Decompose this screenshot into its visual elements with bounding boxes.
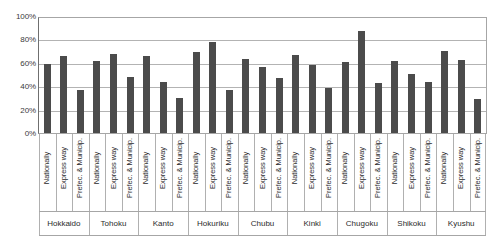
- tick-cell: Nationally: [387, 134, 403, 211]
- bar: [259, 67, 266, 133]
- bar-group: [39, 18, 89, 133]
- series-tick-label: Nationally: [391, 152, 399, 184]
- tick-group: NationallyExpress wayPrefec. & Municip.: [287, 134, 337, 211]
- series-tick-label: Nationally: [341, 152, 349, 184]
- bar: [176, 98, 183, 133]
- bar: [127, 77, 134, 133]
- bar: [242, 59, 249, 133]
- series-tick-label: Express way: [408, 147, 416, 189]
- series-tick-label: Express way: [109, 147, 117, 189]
- series-tick-label: Express way: [209, 147, 217, 189]
- bar: [458, 60, 465, 133]
- tick-cell: Express way: [453, 134, 469, 211]
- tick-cell: Nationally: [287, 134, 303, 211]
- bar: [425, 82, 432, 133]
- tick-cell: Prefec. & Municip.: [321, 134, 337, 211]
- tick-cell: Express way: [105, 134, 121, 211]
- bar: [474, 99, 481, 134]
- region-label: Kanto: [138, 212, 188, 235]
- bar: [325, 88, 332, 133]
- region-label: Tohoku: [89, 212, 139, 235]
- series-tick-label: Express way: [308, 147, 316, 189]
- series-tick-label: Express way: [259, 147, 267, 189]
- tick-cell: Prefec. & Municip.: [72, 134, 88, 211]
- tick-cell: Prefec. & Municip.: [370, 134, 386, 211]
- tick-cell: Nationally: [188, 134, 204, 211]
- tick-cell: Nationally: [89, 134, 105, 211]
- bar-group: [436, 18, 486, 133]
- bar: [77, 90, 84, 133]
- series-tick-label: Nationally: [43, 152, 51, 184]
- tick-cell: Express way: [354, 134, 370, 211]
- y-axis-tick-label: 100%: [2, 13, 36, 21]
- region-label: Shikoku: [387, 212, 437, 235]
- tick-cell: Express way: [403, 134, 419, 211]
- series-tick-label: Nationally: [143, 152, 151, 184]
- tick-cell: Prefec. & Municip.: [420, 134, 436, 211]
- tick-cell: Express way: [155, 134, 171, 211]
- region-label: Kyushu: [436, 212, 486, 235]
- series-tick-label: Nationally: [93, 152, 101, 184]
- tick-group: NationallyExpress wayPrefec. & Municip.: [89, 134, 139, 211]
- bar-group: [337, 18, 387, 133]
- bar-chart: 0%20%40%60%80%100% NationallyExpress way…: [0, 0, 499, 244]
- y-axis: 0%20%40%60%80%100%: [0, 17, 36, 134]
- series-tick-label: Nationally: [292, 152, 300, 184]
- tick-cell: Prefec. & Municip.: [122, 134, 138, 211]
- series-tick-label: Prefec. & Municip.: [474, 138, 482, 198]
- bar-group: [188, 18, 238, 133]
- region-label: Hokuriku: [188, 212, 238, 235]
- tick-cell: Express way: [205, 134, 221, 211]
- series-tick-label: Prefec. & Municip.: [374, 138, 382, 198]
- tick-cell: Express way: [56, 134, 72, 211]
- series-tick-label: Express way: [60, 147, 68, 189]
- bar-group: [287, 18, 337, 133]
- tick-cell: Prefec. & Municip.: [271, 134, 287, 211]
- bar-group: [387, 18, 437, 133]
- series-tick-label: Prefec. & Municip.: [126, 138, 134, 198]
- tick-group: NationallyExpress wayPrefec. & Municip.: [238, 134, 288, 211]
- series-tick-label: Nationally: [441, 152, 449, 184]
- bar: [143, 56, 150, 133]
- tick-cell: Nationally: [39, 134, 55, 211]
- bar-group: [238, 18, 288, 133]
- bar: [226, 90, 233, 133]
- bar: [209, 42, 216, 133]
- series-tick-label: Nationally: [242, 152, 250, 184]
- region-label: Chubu: [238, 212, 288, 235]
- tick-group: NationallyExpress wayPrefec. & Municip.: [436, 134, 486, 211]
- bar: [441, 51, 448, 133]
- bar: [110, 54, 117, 133]
- bar: [342, 62, 349, 133]
- series-tick-label: Express way: [358, 147, 366, 189]
- bar: [358, 31, 365, 133]
- tick-band-right-edge: [485, 134, 486, 211]
- tick-cell: Nationally: [436, 134, 452, 211]
- y-axis-tick-label: 20%: [2, 107, 36, 115]
- bar: [60, 56, 67, 133]
- tick-cell: Prefec. & Municip.: [221, 134, 237, 211]
- tick-cell: Express way: [304, 134, 320, 211]
- bars-layer: [39, 18, 486, 133]
- series-tick-label: Nationally: [192, 152, 200, 184]
- series-tick-label: Prefec. & Municip.: [176, 138, 184, 198]
- tick-cell: Express way: [254, 134, 270, 211]
- tick-cell: Prefec. & Municip.: [172, 134, 188, 211]
- tick-group: NationallyExpress wayPrefec. & Municip.: [138, 134, 188, 211]
- tick-group: NationallyExpress wayPrefec. & Municip.: [387, 134, 437, 211]
- bar: [44, 64, 51, 133]
- series-tick-label: Prefec. & Municip.: [76, 138, 84, 198]
- bar: [93, 61, 100, 133]
- y-axis-tick-label: 0%: [2, 130, 36, 138]
- tick-cell: Prefec. & Municip.: [470, 134, 486, 211]
- y-axis-tick-label: 80%: [2, 36, 36, 44]
- tick-cell: Nationally: [238, 134, 254, 211]
- series-tick-label: Prefec. & Municip.: [225, 138, 233, 198]
- series-tick-label: Express way: [457, 147, 465, 189]
- y-axis-tick-label: 40%: [2, 83, 36, 91]
- tick-cell: Nationally: [138, 134, 154, 211]
- tick-cell: Nationally: [337, 134, 353, 211]
- region-band-right-edge: [485, 212, 486, 235]
- bar: [193, 52, 200, 133]
- bar: [292, 55, 299, 133]
